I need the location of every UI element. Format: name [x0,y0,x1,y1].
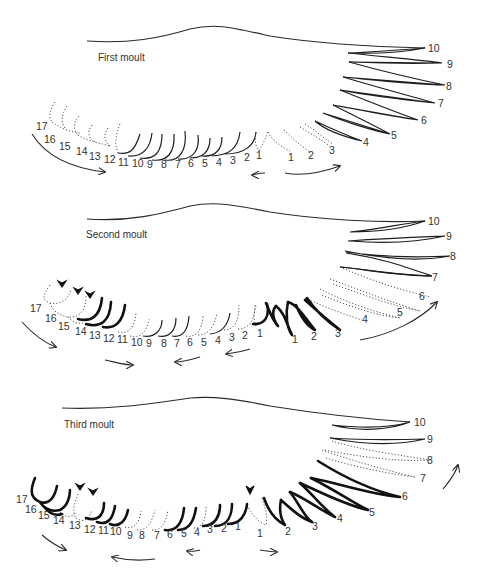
svg-text:8: 8 [161,337,167,349]
svg-text:8: 8 [446,80,452,92]
panel-third-moult: Third moult 17 [16,397,458,560]
svg-text:13: 13 [89,150,101,162]
svg-text:12: 12 [103,332,115,344]
svg-text:9: 9 [146,337,152,349]
svg-text:17: 17 [36,120,48,132]
svg-text:9: 9 [446,230,452,242]
svg-text:14: 14 [75,325,87,337]
svg-text:4: 4 [194,526,200,538]
wing-leading-edge [87,204,425,222]
svg-text:6: 6 [421,114,427,126]
svg-text:16: 16 [45,312,57,324]
svg-text:11: 11 [118,156,129,168]
svg-text:3: 3 [229,331,235,343]
svg-text:11: 11 [117,333,128,345]
svg-text:4: 4 [362,313,368,325]
svg-text:8: 8 [450,250,456,262]
arrowhead-icon [89,489,97,495]
svg-text:4: 4 [216,156,222,168]
svg-text:6: 6 [187,336,193,348]
arrow-icon [112,557,155,560]
svg-text:5: 5 [202,157,208,169]
svg-text:7: 7 [432,271,438,283]
arrowhead-icon [74,288,82,294]
arrow-icon [105,360,133,365]
svg-text:10: 10 [428,42,440,54]
svg-text:4: 4 [337,512,343,524]
svg-text:9: 9 [427,433,433,445]
panel-title: Third moult [64,419,114,430]
svg-text:5: 5 [397,306,403,318]
svg-text:1: 1 [292,333,298,345]
svg-text:2: 2 [244,151,250,163]
arrow-icon [443,465,458,489]
svg-text:4: 4 [363,136,369,148]
moult-diagram: First moult [0,0,482,579]
svg-text:8: 8 [161,158,167,170]
svg-text:10: 10 [428,215,440,227]
svg-text:16: 16 [44,133,56,145]
svg-text:7: 7 [438,97,444,109]
svg-text:3: 3 [230,154,236,166]
svg-text:5: 5 [391,129,397,141]
arrow-icon [285,166,340,174]
svg-text:13: 13 [69,519,81,531]
arrow-icon [42,535,66,550]
svg-text:1: 1 [235,520,241,532]
svg-text:4: 4 [215,334,221,346]
svg-text:14: 14 [53,514,65,526]
svg-text:14: 14 [76,145,88,157]
svg-text:1: 1 [257,527,263,539]
arrow-icon [260,550,277,552]
svg-text:7: 7 [420,472,426,484]
svg-text:6: 6 [402,490,408,502]
svg-text:9: 9 [127,529,133,541]
svg-text:10: 10 [131,336,143,348]
svg-text:1: 1 [257,327,263,339]
svg-text:2: 2 [308,149,314,161]
svg-text:9: 9 [147,158,153,170]
svg-text:2: 2 [221,522,227,534]
arrow-icon [252,173,265,175]
svg-text:7: 7 [154,529,160,541]
arrowhead-icon [58,281,66,287]
svg-text:15: 15 [38,509,50,521]
svg-text:10: 10 [414,416,426,428]
svg-text:10: 10 [132,157,144,169]
svg-text:17: 17 [30,302,42,314]
svg-text:2: 2 [285,525,291,537]
arrow-icon [187,550,200,551]
panel-title: First moult [98,52,145,63]
svg-text:6: 6 [419,290,425,302]
arrowhead-icon [86,292,94,298]
arrow-icon [22,322,56,347]
svg-text:15: 15 [59,140,71,152]
svg-text:5: 5 [181,527,187,539]
panel-first-moult: First moult [32,26,453,175]
svg-text:12: 12 [104,153,116,165]
panel-title: Second moult [86,229,147,240]
arrow-icon [226,349,250,354]
arrowhead-icon [76,484,84,490]
wing-leading-edge [62,397,410,422]
svg-text:3: 3 [207,523,213,535]
svg-text:3: 3 [335,327,341,339]
svg-text:2: 2 [242,329,248,341]
svg-text:8: 8 [427,454,433,466]
svg-text:15: 15 [58,320,70,332]
svg-text:16: 16 [25,503,37,515]
svg-text:6: 6 [188,157,194,169]
svg-text:7: 7 [174,337,180,349]
svg-text:8: 8 [139,529,145,541]
panel-second-moult: Second moult [22,204,456,365]
svg-text:3: 3 [312,520,318,532]
svg-text:13: 13 [89,329,101,341]
svg-text:10: 10 [110,525,122,537]
svg-text:3: 3 [329,144,335,156]
svg-text:11: 11 [98,524,109,536]
svg-text:12: 12 [84,523,96,535]
arrow-icon [175,357,200,362]
svg-text:2: 2 [311,330,317,342]
svg-text:1: 1 [288,151,294,163]
arrowhead-icon [246,486,254,494]
